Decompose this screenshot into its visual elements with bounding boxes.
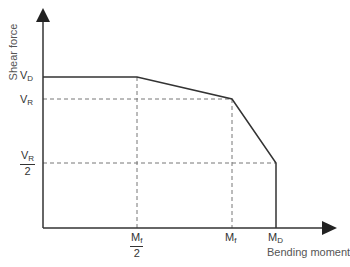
- interaction-curve: [43, 77, 276, 228]
- y-tick-vr-half-den: 2: [25, 165, 31, 177]
- y-tick-vr-sub: R: [27, 98, 33, 107]
- guide-lines: [43, 77, 276, 228]
- x-tick-mf-base: M: [225, 231, 234, 243]
- x-axis-arrow-icon: [322, 221, 337, 235]
- x-tick-mf-half: Mf 2: [130, 232, 143, 259]
- y-tick-vr: VR: [20, 94, 33, 107]
- x-axis-label: Bending moment: [267, 246, 350, 258]
- axes: [43, 20, 326, 228]
- y-axis-arrow-icon: [36, 8, 50, 22]
- x-tick-mf-half-sub: f: [140, 236, 142, 245]
- x-tick-mf-half-base: M: [131, 231, 140, 243]
- x-tick-mf: Mf: [225, 232, 236, 245]
- y-tick-vr-half: VR 2: [20, 150, 35, 177]
- x-tick-mf-half-den: 2: [134, 247, 140, 259]
- y-tick-vr-half-sub: R: [28, 154, 34, 163]
- x-tick-mf-sub: f: [234, 236, 236, 245]
- x-tick-md-sub: D: [277, 236, 283, 245]
- y-axis-label: Shear force: [7, 24, 19, 81]
- x-tick-md-base: M: [268, 231, 277, 243]
- y-tick-vd: VD: [20, 70, 33, 83]
- y-tick-vd-sub: D: [27, 74, 33, 83]
- x-tick-md: MD: [268, 232, 283, 245]
